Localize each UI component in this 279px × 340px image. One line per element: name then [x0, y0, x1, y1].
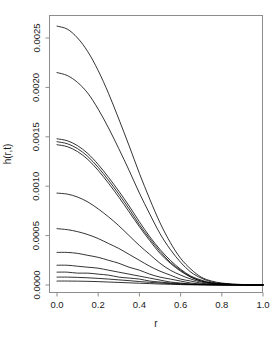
data-curve	[57, 145, 263, 285]
x-tick-label: 1.0	[256, 299, 269, 310]
y-axis-title: h(r,t)	[2, 144, 13, 165]
y-tick-label: 0.0005	[31, 221, 42, 250]
data-curve	[57, 229, 263, 285]
x-tick-label: 0.0	[50, 299, 63, 310]
x-tick-label: 0.2	[92, 299, 105, 310]
x-tick-label: 0.4	[133, 299, 146, 310]
data-curve	[57, 26, 263, 285]
x-axis-title: r	[154, 318, 158, 329]
y-axis-tick-marks	[46, 38, 50, 285]
y-axis-tick-labels: 0.00000.00050.00100.00150.00200.0025	[31, 23, 42, 299]
y-tick-label: 0.0010	[31, 172, 42, 201]
x-axis-tick-marks	[57, 293, 263, 297]
x-tick-label: 0.8	[215, 299, 228, 310]
x-tick-label: 0.6	[174, 299, 187, 310]
y-tick-label: 0.0025	[31, 23, 42, 52]
y-tick-label: 0.0015	[31, 122, 42, 151]
y-tick-label: 0.0020	[31, 73, 42, 102]
chart-figure: 0.00000.00050.00100.00150.00200.0025 0.0…	[0, 0, 279, 340]
plot-canvas: 0.00000.00050.00100.00150.00200.0025 0.0…	[0, 0, 279, 340]
curve-group	[57, 26, 263, 285]
x-axis-tick-labels: 0.00.20.40.60.81.0	[50, 299, 269, 310]
y-tick-label: 0.0000	[31, 270, 42, 299]
